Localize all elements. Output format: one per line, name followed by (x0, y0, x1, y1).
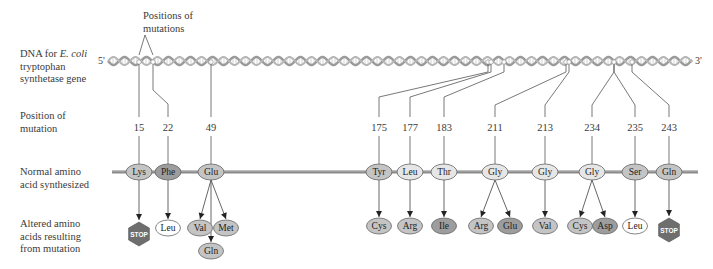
mutation-connector-lines (136, 35, 672, 242)
position-number: 243 (661, 122, 677, 133)
altered-amino-acid-label: Val (194, 223, 207, 233)
position-number: 234 (584, 122, 601, 133)
positions-of-mutations-callout: Positions of mutations (143, 10, 193, 35)
position-number: 22 (163, 122, 174, 133)
altered-amino-acid-label: Cys (372, 221, 387, 231)
dna-label-line-3: synthetase gene (20, 73, 87, 86)
normal-amino-acid-label: Thr (437, 167, 452, 177)
altered-amino-acid-label: Cys (573, 221, 588, 231)
normal-amino-acid-label: Phe (161, 167, 175, 177)
position-number: 15 (134, 122, 145, 133)
normal-amino-acid-label: Ser (629, 167, 643, 177)
normal-row-label: Normal amino acid synthesized (20, 166, 89, 191)
three-prime-label: 3' (695, 55, 702, 66)
altered-amino-acid-label: Arg (474, 221, 489, 231)
position-number: 213 (537, 122, 553, 133)
altered-amino-acid-label: Leu (628, 221, 643, 231)
normal-amino-acid-label: Lys (132, 167, 146, 177)
callout-line-2: mutations (143, 23, 193, 36)
position-number: 49 (206, 122, 217, 133)
position-number: 175 (371, 122, 387, 133)
tryptophan-synthetase-mutation-diagram: 15LysSTOP22PheLeu49GluValMetGln175TyrCys… (0, 0, 713, 269)
position-number: 183 (436, 122, 452, 133)
normal-amino-acid-label: Tyr (372, 167, 386, 177)
altered-amino-acid-label: Glu (503, 221, 518, 231)
altered-amino-acid-label: Gln (204, 246, 219, 256)
diagram-canvas: 15LysSTOP22PheLeu49GluValMetGln175TyrCys… (0, 0, 713, 269)
altered-row-label: Altered amino acids resulting from mutat… (20, 218, 81, 256)
altered-amino-acid-label: Met (218, 223, 234, 233)
dna-label-line-1: DNA for E. coli (20, 48, 87, 61)
normal-amino-acid-label: Leu (403, 167, 418, 177)
mutation-49: 49GluValMetGln (188, 122, 239, 259)
mutation-211: 211GlyArgGlu (469, 122, 523, 234)
five-prime-label: 5' (98, 55, 105, 66)
e-coli-italic: E. coli (60, 48, 87, 59)
dna-double-helix (108, 57, 692, 65)
altered-amino-acid-label: Leu (161, 223, 176, 233)
callout-line-1: Positions of (143, 10, 193, 23)
position-number: 235 (627, 122, 643, 133)
normal-amino-acid-label: Gln (662, 167, 677, 177)
dna-label-line-2: tryptophan (20, 61, 87, 74)
dna-row-label: DNA for E. coli tryptophan synthetase ge… (20, 48, 87, 86)
altered-amino-acid-label: Ile (439, 221, 449, 231)
normal-amino-acid-label: Gly (585, 167, 600, 177)
stop-label: STOP (660, 227, 678, 234)
normal-amino-acid-label: Gly (538, 167, 553, 177)
altered-amino-acid-label: Asp (597, 221, 613, 231)
position-number: 177 (402, 122, 418, 133)
altered-amino-acid-label: Val (539, 221, 552, 231)
stop-label: STOP (130, 231, 148, 238)
normal-amino-acid-label: Glu (204, 167, 219, 177)
position-number: 211 (487, 122, 502, 133)
altered-amino-acid-label: Arg (403, 221, 418, 231)
mutation-234: 234GlyCysAsp (568, 122, 618, 234)
position-row-label: Position of mutation (20, 110, 66, 135)
normal-amino-acid-label: Gly (488, 167, 503, 177)
